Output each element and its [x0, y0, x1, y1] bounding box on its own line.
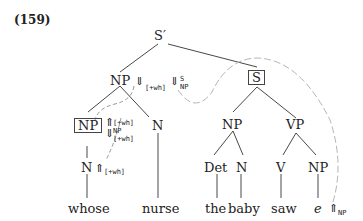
node-np-top: NP	[110, 74, 130, 87]
feature-wh: [+wh]	[113, 136, 134, 143]
node-n-baby: N	[236, 161, 247, 174]
word-nurse: nurse	[142, 202, 179, 215]
node-s-bar: S′	[154, 29, 166, 42]
word-saw: saw	[271, 202, 297, 215]
up-arrow-icon: ⇑	[329, 203, 338, 214]
node-np-subj: NP	[222, 118, 242, 131]
node-s-boxed: S	[248, 70, 265, 85]
node-n-whose: N	[81, 161, 92, 174]
feature-wh: [+wh]	[104, 169, 125, 176]
node-np-boxed: NP	[74, 118, 102, 133]
tree-edges	[0, 0, 363, 221]
slash-sup-np: NP	[113, 128, 121, 135]
slash-sub-np: NP	[180, 84, 188, 91]
word-e-trace: e	[314, 202, 322, 215]
word-baby: baby	[228, 202, 260, 215]
slash-sup-s: S	[180, 76, 184, 83]
feature-wh: [+wh]	[113, 120, 134, 127]
feature-wh: [+wh]	[145, 85, 166, 92]
node-np-obj: NP	[308, 161, 328, 174]
slash-sub-np: NP	[338, 210, 346, 217]
down-arrow-icon: ⇓	[170, 76, 179, 87]
node-n-nurse: N	[152, 119, 163, 132]
word-the: the	[205, 202, 226, 215]
node-det: Det	[204, 161, 227, 174]
word-whose: whose	[68, 202, 110, 215]
node-vp: VP	[286, 118, 304, 131]
up-arrow-icon: ⇑	[95, 163, 104, 174]
down-arrow-icon: ⇓	[135, 76, 144, 87]
node-v: V	[276, 161, 285, 174]
example-number: (159)	[14, 13, 50, 27]
